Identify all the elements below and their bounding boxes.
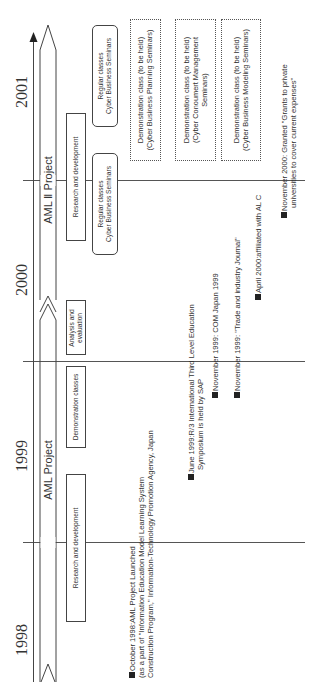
bullet-square-icon [188, 474, 194, 480]
aml-project-label: AML Project [42, 440, 54, 500]
year-label-1998: 1998 [13, 624, 31, 656]
phase-analysis-label: Analysis and evaluation [68, 309, 84, 346]
phase-rd-1998-label: Research and development [72, 508, 80, 589]
phase-analysis-box: Analysis and evaluation [66, 300, 86, 355]
event-oct-1998: October 1998:AML Project Launched (as a … [128, 372, 164, 678]
planned-demo-management-box: Demonstration class (to be held) (Cyber … [175, 19, 216, 161]
year-label-2001: 2001 [13, 76, 31, 108]
event-nov-1999-com: November 1999: COM Japan 1999 [211, 240, 223, 398]
year-label-1999: 1999 [13, 440, 31, 472]
regular-classes-2000-label: Regular classes Cyber Business Seminars [97, 166, 113, 242]
project-tail-notch [41, 664, 55, 682]
planned-demo-planning-box: Demonstration class (to be held) (Cyber … [130, 19, 161, 161]
event-jun-1999: June 1999:R/3 International Third Level … [187, 250, 211, 480]
planned-demo-planning-label: Demonstration class (to be held) (Cyber … [136, 30, 154, 151]
planned-demo-modeling-box: Demonstration class (to be held) (Cyber … [221, 19, 261, 161]
phase-rd-2000-box: Research and development [66, 113, 86, 241]
phase-demo-1999-label: Demonstration classes [72, 374, 80, 441]
bullet-square-icon [281, 212, 287, 218]
regular-classes-2001-box: Regular classes Cyber Business Seminars [92, 25, 118, 127]
aml2-project-label: AML Ⅱ Project [42, 156, 55, 224]
planned-demo-management-label: Demonstration class (to be held) (Cyber … [182, 37, 209, 143]
year-label-2000: 2000 [13, 264, 31, 296]
bullet-square-icon [212, 392, 218, 398]
phase-demo-1999-box: Demonstration classes [66, 366, 86, 448]
bullet-square-icon [234, 392, 240, 398]
regular-classes-2001-label: Regular classes Cyber Business Seminars [97, 38, 113, 114]
planned-demo-modeling-label: Demonstration class (to be held) (Cyber … [232, 29, 250, 151]
time-axis-arrowhead-icon [30, 32, 38, 42]
event-nov-2000: November 2000: Granted "Grants to privat… [280, 24, 304, 218]
event-nov-1999-journal: November 1999: "Trade and industry Journ… [233, 200, 245, 398]
phase-rd-2000-label: Research and development [72, 137, 80, 218]
bullet-square-icon [255, 294, 261, 300]
event-apr-2000: April 2000:affiliated with AL C [254, 170, 266, 300]
bullet-square-icon [129, 672, 135, 678]
regular-classes-2000-box: Regular classes Cyber Business Seminars [92, 153, 118, 255]
phase-rd-1998-box: Research and development [66, 474, 86, 622]
